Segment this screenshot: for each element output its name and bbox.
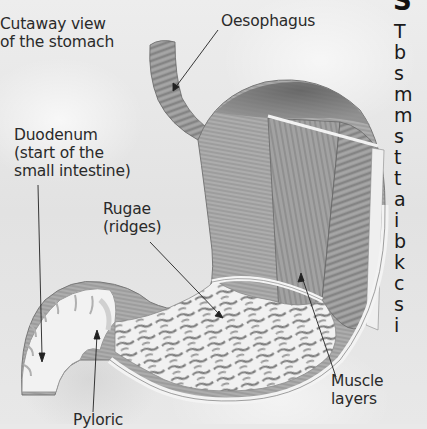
article-line: m xyxy=(394,105,413,125)
article-line: c xyxy=(394,273,404,293)
article-line: s xyxy=(394,126,404,146)
article-line: t xyxy=(394,147,401,167)
article-line: s xyxy=(394,63,404,83)
article-line: T xyxy=(394,21,406,41)
label-duodenum: Duodenum (start of the small intestine) xyxy=(14,126,131,180)
article-line: b xyxy=(394,42,406,62)
article-text-column: S T b s m m s t t a i b k c s i xyxy=(393,0,427,424)
label-pyloric: Pyloric xyxy=(73,411,123,429)
article-line: k xyxy=(394,252,405,272)
article-line: b xyxy=(394,231,406,251)
article-line: i xyxy=(394,315,399,335)
article-line: i xyxy=(394,210,399,230)
label-oesophagus: Oesophagus xyxy=(221,12,315,30)
label-rugae: Rugae (ridges) xyxy=(103,200,161,236)
article-line: t xyxy=(394,168,401,188)
article-line: m xyxy=(394,84,413,104)
article-line: s xyxy=(394,294,404,314)
article-heading-fragment: S xyxy=(393,0,412,16)
article-line: a xyxy=(394,189,406,209)
label-cutaway-view: Cutaway view of the stomach xyxy=(0,15,114,51)
